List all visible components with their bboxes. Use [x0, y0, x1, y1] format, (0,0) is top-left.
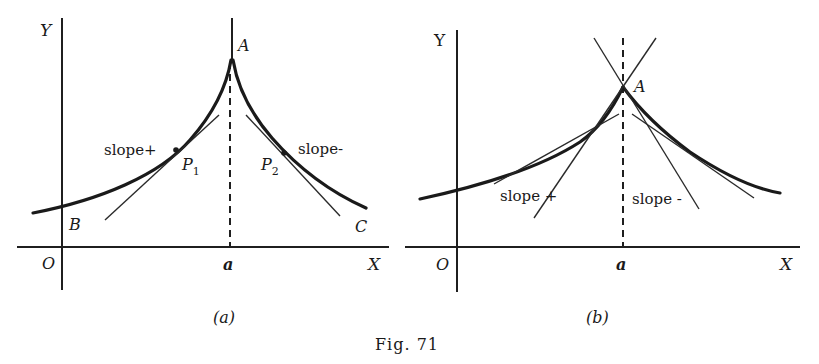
- slope-negative-label-a: slope-: [298, 140, 343, 158]
- panel-a: Y O a X A B C P1 P2 slope+ slope- (a): [17, 18, 389, 327]
- slope-negative-label-b: slope -: [632, 190, 682, 208]
- x-label-a: X: [366, 254, 381, 274]
- curve-left-branch-b: [420, 87, 623, 199]
- label-C: C: [355, 217, 367, 236]
- slope-positive-label-a: slope+: [104, 141, 157, 159]
- curve-right-branch-a: [233, 60, 366, 208]
- shallow-tangent-left-b: [494, 114, 619, 184]
- label-B: B: [68, 215, 81, 234]
- point-p1: [173, 147, 179, 153]
- point-p2: [281, 150, 287, 156]
- figure-caption: Fig. 71: [375, 335, 439, 354]
- panel-sublabel-b: (b): [586, 308, 609, 327]
- slope-positive-label-b: slope +: [500, 187, 557, 205]
- figure-71: Y O a X A B C P1 P2 slope+ slope- (a): [0, 0, 819, 364]
- label-P2: P2: [260, 155, 279, 178]
- label-P1: P1: [181, 155, 200, 178]
- y-label-b: Y: [433, 30, 446, 50]
- shallow-tangent-right-b: [632, 114, 754, 198]
- label-A-b: A: [632, 77, 646, 96]
- tick-label-a-b: a: [616, 255, 626, 274]
- origin-label-a: O: [42, 254, 55, 273]
- curve-right-branch-b: [623, 87, 780, 193]
- tangent-p1: [105, 115, 219, 220]
- label-A-a: A: [236, 36, 250, 55]
- panel-b: Y O a X A slope + slope - (b): [405, 30, 800, 327]
- y-label-a: Y: [40, 20, 53, 40]
- origin-label-b: O: [436, 255, 449, 274]
- panel-sublabel-a: (a): [213, 308, 235, 327]
- x-label-b: X: [778, 254, 793, 274]
- tick-label-a-a: a: [223, 255, 233, 274]
